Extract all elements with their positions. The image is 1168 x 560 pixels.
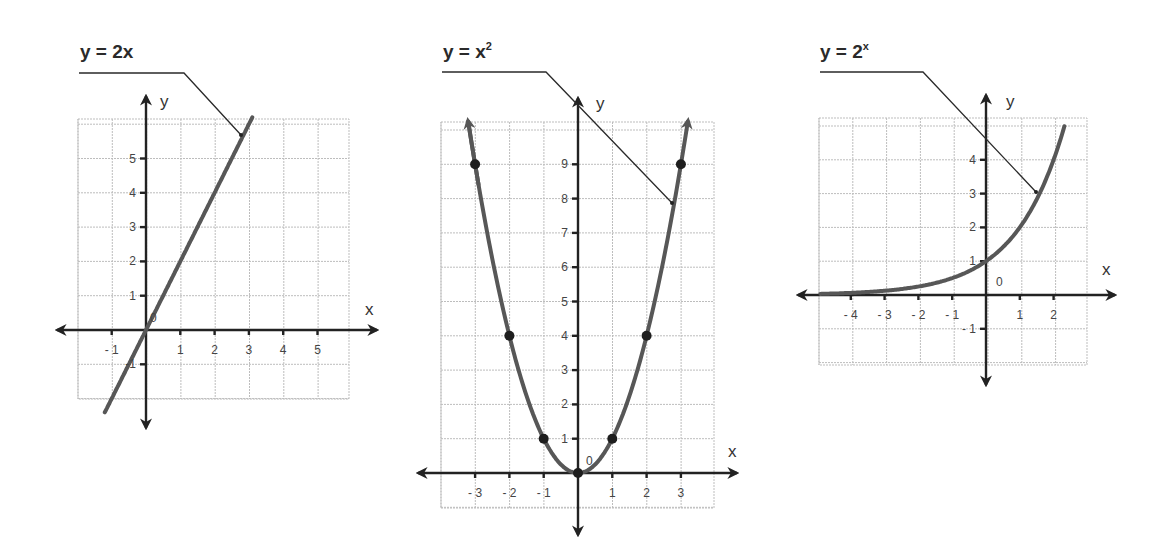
svg-text:3: 3 [129,220,136,234]
svg-text:- 1: - 1 [962,322,976,336]
axes [798,95,1115,385]
svg-text:8: 8 [561,192,568,206]
svg-text:- 1: - 1 [945,308,959,322]
origin-label: 0 [586,454,593,468]
svg-text:2: 2 [129,254,136,268]
title-text: y = x2 [443,40,492,62]
svg-text:6: 6 [561,260,568,274]
graph-quadratic: - 3- 2- 1123123456789 y = x2 x y 0 [418,40,737,535]
svg-text:- 1: - 1 [105,343,119,357]
function-curve [820,126,1064,294]
svg-text:2: 2 [643,486,650,500]
svg-text:1: 1 [561,432,568,446]
tick-labels: - 3- 2- 1123123456789 [468,157,684,500]
svg-text:4: 4 [561,329,568,343]
grid [819,118,1087,365]
svg-text:- 4: - 4 [844,308,858,322]
svg-text:1: 1 [1016,308,1023,322]
svg-text:9: 9 [561,157,568,171]
svg-text:5: 5 [314,343,321,357]
data-point [642,331,652,341]
svg-text:2: 2 [969,220,976,234]
data-point [504,331,514,341]
origin-label: 0 [996,275,1003,289]
svg-text:3: 3 [969,187,976,201]
svg-text:7: 7 [561,226,568,240]
graph-exponential: - 4- 3- 2- 112- 11234 y = 2x x y 0 [798,40,1115,385]
svg-text:1: 1 [969,254,976,268]
svg-text:1: 1 [177,343,184,357]
svg-text:-1: -1 [125,357,136,371]
function-graphs-figure: - 112345-112345 y = 2x x y 0 - 3- 2- 112… [0,0,1168,560]
graph-title: y = 2x [79,41,243,137]
y-axis-label: y [160,92,169,111]
x-axis-label: x [365,300,374,319]
svg-text:1: 1 [129,289,136,303]
svg-text:5: 5 [561,295,568,309]
svg-text:3: 3 [561,363,568,377]
svg-text:- 3: - 3 [878,308,892,322]
data-point [539,434,549,444]
svg-text:4: 4 [280,343,287,357]
svg-text:1: 1 [609,486,616,500]
svg-text:2: 2 [561,397,568,411]
data-point [607,434,617,444]
grid [78,119,349,399]
origin-label: 0 [150,311,157,325]
svg-text:- 1: - 1 [537,486,551,500]
svg-text:4: 4 [969,153,976,167]
x-axis-label: x [1102,260,1111,279]
data-point [573,468,583,478]
x-axis-label: x [728,442,737,461]
y-axis-label: y [1006,92,1015,111]
graph-linear: - 112345-112345 y = 2x x y 0 [57,41,377,428]
y-axis-label: y [596,94,605,113]
svg-text:5: 5 [129,152,136,166]
data-point [470,159,480,169]
svg-text:2: 2 [1050,308,1057,322]
svg-text:3: 3 [246,343,253,357]
svg-text:2: 2 [211,343,218,357]
title-text: y = 2x [80,41,134,62]
svg-text:- 2: - 2 [911,308,925,322]
axes [57,96,377,428]
svg-text:- 3: - 3 [468,486,482,500]
svg-text:3: 3 [678,486,685,500]
svg-text:- 2: - 2 [502,486,516,500]
title-text: y = 2x [820,40,870,62]
data-point [676,159,686,169]
svg-text:4: 4 [129,186,136,200]
